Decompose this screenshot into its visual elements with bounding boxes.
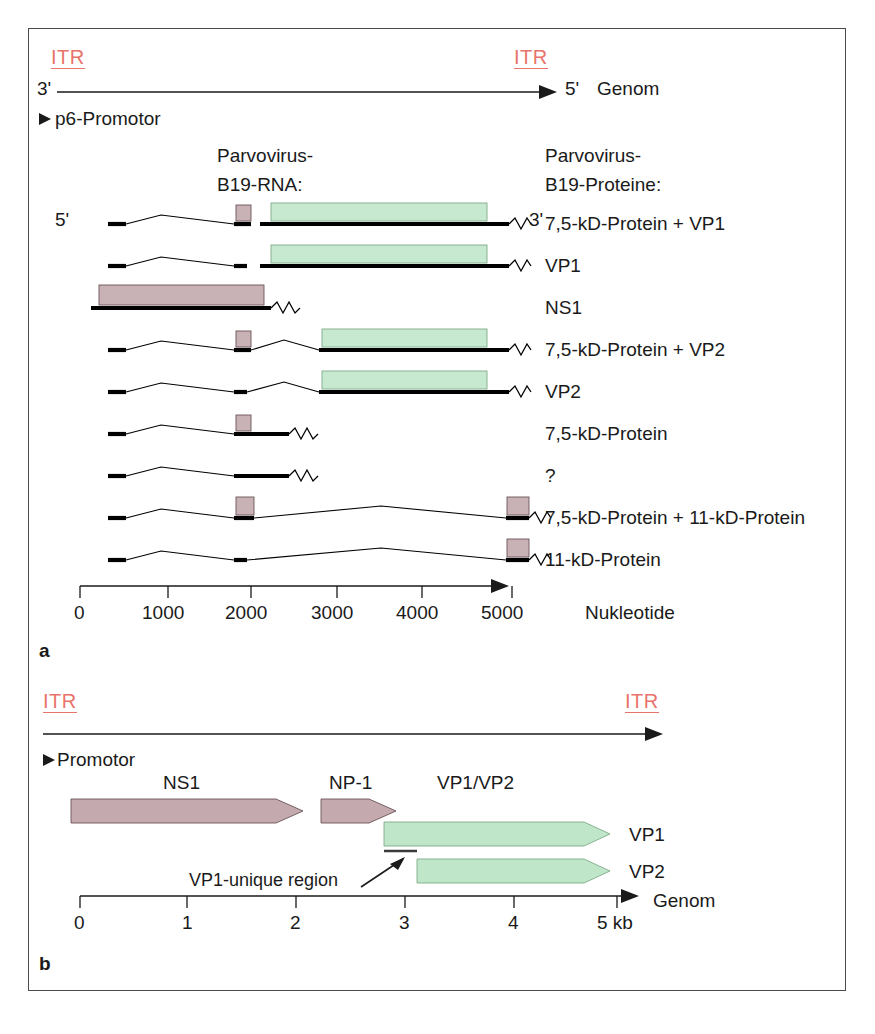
orf-arrow-vp1 — [384, 820, 614, 850]
axis-tick-label: 3 — [399, 913, 410, 932]
panel-b-letter: b — [39, 954, 51, 973]
genome-label-a: Genom — [597, 79, 659, 98]
promoter-triangle-a — [37, 111, 53, 127]
panel-a-itr-right: ITR — [514, 47, 548, 69]
genome-axis-arrow-a — [57, 81, 557, 103]
genome-five-prime: 5' — [565, 79, 579, 98]
product-label: 7,5-kD-Protein + VP1 — [545, 214, 725, 233]
transcript-row — [51, 283, 531, 321]
transcript-row — [51, 325, 531, 363]
protein-heading-line2: B19-Proteine: — [545, 173, 661, 196]
axis-tick-label: 1 — [182, 913, 193, 932]
genome-kb-axis — [51, 884, 651, 910]
axis-tick-label: 0 — [74, 603, 85, 622]
panel-a-letter: a — [39, 641, 50, 660]
product-label: 7,5-kD-Protein — [545, 424, 668, 443]
product-label: VP1 — [545, 256, 581, 275]
promoter-triangle-b — [41, 752, 57, 768]
axis-tick-label: 2000 — [225, 603, 267, 622]
rna-heading: Parvovirus- B19-RNA: — [217, 144, 313, 196]
product-label: NS1 — [545, 298, 582, 317]
genome-three-prime: 3' — [37, 79, 51, 98]
rna-heading-line1: Parvovirus- — [217, 144, 313, 167]
transcript-row — [51, 535, 531, 573]
genome-axis-label-b: Genom — [653, 891, 715, 910]
axis-tick-label: 4000 — [396, 603, 438, 622]
rna-three-prime: 3' — [529, 210, 543, 229]
orf-label: NP-1 — [329, 773, 372, 792]
transcript-row — [51, 367, 531, 405]
axis-tick-label: 2 — [290, 913, 301, 932]
axis-tick-label: 5 kb — [597, 913, 633, 932]
orf-product-label: VP2 — [629, 862, 665, 881]
product-label: 11-kD-Protein — [545, 550, 661, 569]
product-label: 7,5-kD-Protein + 11-kD-Protein — [545, 508, 805, 527]
panel-b-itr-right: ITR — [625, 691, 659, 713]
product-label: VP2 — [545, 382, 581, 401]
transcript-row — [51, 409, 531, 447]
panel-b-itr-left: ITR — [43, 691, 77, 713]
transcript-row — [51, 241, 531, 279]
rna-heading-line2: B19-RNA: — [217, 173, 313, 196]
axis-tick-label: 3000 — [311, 603, 353, 622]
p6-promoter-label: p6-Promotor — [55, 109, 161, 128]
genome-axis-arrow-b — [43, 723, 663, 745]
panel-a-itr-left: ITR — [51, 47, 85, 69]
orf-arrow-vp2 — [417, 857, 617, 887]
transcript-row — [51, 493, 531, 531]
orf-product-label: VP1 — [629, 825, 665, 844]
orf-label: NS1 — [163, 773, 200, 792]
product-label: 7,5-kD-Protein + VP2 — [545, 340, 725, 359]
nucleotide-axis-label: Nukleotide — [585, 603, 675, 622]
transcript-row — [51, 451, 531, 489]
orf-arrow-ns1 — [71, 797, 311, 827]
axis-tick-label: 5000 — [481, 603, 523, 622]
promoter-label-b: Promotor — [57, 750, 135, 769]
product-label: ? — [545, 466, 556, 485]
vp1-unique-marker — [384, 847, 424, 855]
transcript-row — [51, 199, 531, 237]
axis-tick-label: 0 — [74, 913, 85, 932]
nucleotide-axis — [51, 574, 521, 600]
protein-heading-line1: Parvovirus- — [545, 144, 661, 167]
axis-tick-label: 1000 — [142, 603, 184, 622]
figure-container: ITR ITR 3' 5' Genom p6-Promotor Parvovir… — [28, 28, 846, 991]
orf-label: VP1/VP2 — [437, 773, 514, 792]
axis-tick-label: 4 — [508, 913, 519, 932]
protein-heading: Parvovirus- B19-Proteine: — [545, 144, 661, 196]
